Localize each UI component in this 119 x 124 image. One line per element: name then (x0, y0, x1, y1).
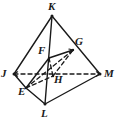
vertex-label-l: L (41, 108, 48, 119)
vertex-dot-j (13, 73, 16, 76)
vertex-label-f: F (38, 45, 45, 56)
vertex-dot-m (99, 73, 102, 76)
edge-F-G (49, 50, 73, 58)
geometry-figure-svg (0, 0, 119, 124)
vertex-label-e: E (18, 86, 25, 97)
vertex-dot-k (51, 15, 54, 18)
vertex-label-m: M (104, 68, 114, 79)
edge-F-H-hidden (49, 58, 53, 76)
vertex-dot-f (48, 57, 50, 59)
solid-edges-group (14, 16, 100, 104)
vertex-label-j: J (1, 68, 7, 79)
vertex-dot-g (72, 49, 74, 51)
edge-K-L (45, 16, 52, 104)
vertex-label-k: K (48, 1, 55, 12)
edge-J-K (14, 16, 52, 74)
vertex-label-g: G (75, 36, 83, 47)
vertex-dot-l (44, 103, 47, 106)
edge-E-L (26, 88, 45, 104)
geometry-figure-container: KJMLEFGH (0, 0, 119, 124)
vertex-label-h: H (54, 74, 63, 85)
